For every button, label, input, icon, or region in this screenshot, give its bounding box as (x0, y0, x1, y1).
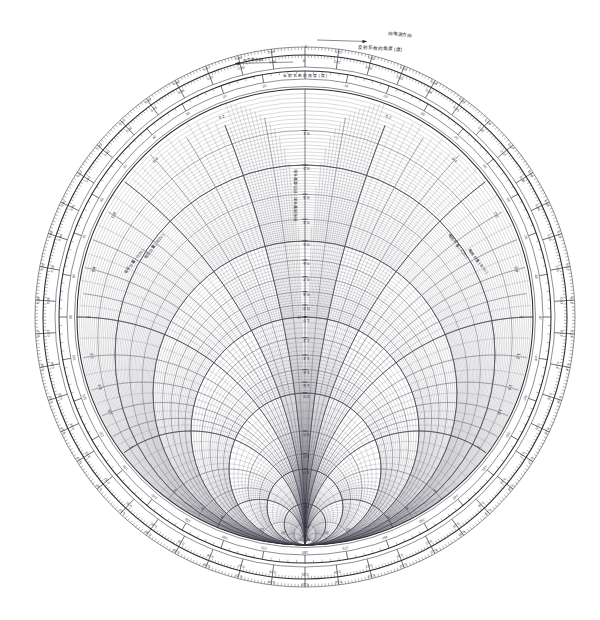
wavelength-tick (542, 193, 545, 194)
wavelength-tick (190, 550, 191, 553)
wavelength-tick (112, 140, 114, 142)
angle-scale-label: -10 (343, 84, 349, 89)
wavelength-tick (525, 468, 527, 470)
angle-tick (128, 486, 130, 488)
wavelength-tick (202, 76, 203, 79)
wavelength-tick (87, 474, 89, 476)
wavelength-toward-generator-label: 0.30 (144, 529, 152, 536)
angle-tick (229, 548, 230, 551)
angle-tick (134, 140, 136, 142)
wavelength-tick (63, 415, 66, 416)
wavelength-tick (74, 194, 77, 195)
wavelength-tick (355, 52, 356, 55)
wavelength-tick (388, 69, 389, 72)
wavelength-tick (523, 471, 525, 473)
wavelength-tick (107, 487, 109, 489)
wavelength-tick (193, 560, 194, 563)
wavelength-tick (152, 537, 154, 539)
angle-tick (167, 113, 169, 115)
wavelength-tick (121, 131, 123, 133)
angle-tick (190, 532, 191, 535)
wavelength-tick (352, 580, 353, 583)
chart-origin-label: O (297, 315, 301, 320)
wavelength-tick (487, 501, 489, 503)
wavelength-toward-generator-label: 0.18 (507, 483, 514, 491)
wavelength-tick (135, 514, 137, 516)
wavelength-tick (115, 125, 117, 127)
wavelength-tick (215, 71, 216, 74)
wavelength-tick (536, 451, 539, 453)
wavelength-tick (441, 94, 443, 97)
wavelength-toward-load-label: 0.15 (546, 393, 552, 401)
angle-tick (69, 384, 72, 385)
wavelength-tick (391, 61, 392, 64)
wavelength-tick (133, 119, 135, 121)
wavelength-tick (543, 214, 546, 215)
wavelength-tick (539, 446, 542, 447)
wavelength-tick (442, 546, 444, 549)
angle-tick (197, 535, 198, 538)
angle-tick (122, 480, 124, 482)
wavelength-tick (448, 89, 450, 92)
wavelength-tick (202, 555, 203, 558)
wavelength-tick (254, 52, 255, 55)
wavelength-tick (439, 84, 441, 87)
angle-tick (529, 233, 537, 236)
wavelength-toward-generator-label: 0.05 (458, 97, 466, 104)
wavelength-toward-load-label: 0.40 (58, 234, 64, 242)
angle-tick (147, 499, 152, 505)
wavelength-tick (74, 439, 77, 440)
wavelength-tick (495, 127, 497, 129)
wavelength-toward-load-label: 0.09 (534, 204, 541, 212)
wavelength-tick (534, 439, 537, 440)
wavelength-tick (500, 145, 502, 147)
wavelength-tick (46, 240, 49, 241)
wavelength-toward-load-label: 0.11 (555, 265, 560, 272)
wavelength-tick (173, 91, 175, 94)
reactance-arc-fine (197, 123, 305, 545)
wavelength-tick (438, 92, 440, 95)
wavelength-tick (447, 534, 449, 537)
wavelength-tick (554, 412, 557, 413)
angle-scale-label: 50 (123, 163, 129, 169)
wavelength-tick (494, 138, 496, 140)
angle-tick (262, 75, 263, 83)
wavelength-tick (190, 73, 191, 76)
wavelength-tick (498, 490, 500, 492)
wavelength-tick (64, 418, 67, 419)
wavelength-tick (515, 163, 517, 165)
angle-tick (372, 81, 373, 84)
wavelength-tick (193, 551, 194, 554)
wavelength-tick (500, 500, 502, 502)
angle-scale-label: -60 (505, 197, 511, 203)
wavelength-tick (222, 571, 223, 574)
wavelength-tick (45, 390, 48, 391)
wavelength-tick (534, 178, 537, 180)
wavelength-tick (517, 479, 519, 481)
wavelength-tick (248, 578, 249, 581)
wavelength-tick (509, 155, 511, 157)
wavelength-toward-generator-label: 0.27 (235, 573, 243, 579)
wavelength-tick (53, 245, 56, 246)
wavelength-tick (388, 60, 389, 63)
wavelength-toward-generator-label: 0.35 (48, 396, 54, 404)
angle-tick (539, 384, 542, 385)
wavelength-tick (397, 64, 398, 67)
wavelength-toward-load-label: 0.08 (518, 175, 525, 183)
wavelength-tick (196, 79, 197, 82)
wavelength-tick (553, 242, 556, 243)
angle-tick (412, 96, 413, 99)
wavelength-toward-generator-label: 0.13 (569, 330, 573, 337)
wavelength-tick (128, 113, 130, 115)
wavelength-zero-outer: 0 (305, 44, 308, 49)
wavelength-tick (470, 115, 472, 117)
wavelength-tick (42, 256, 45, 257)
wavelength-tick (545, 415, 548, 416)
toward-generator-arrow-label: 向电源方向 (387, 30, 412, 39)
angle-tick (74, 398, 82, 401)
wavelength-tick (45, 243, 48, 244)
angle-tick (117, 470, 123, 475)
wavelength-tick (170, 539, 172, 542)
angle-tick (106, 460, 108, 462)
wavelength-tick (89, 464, 91, 466)
